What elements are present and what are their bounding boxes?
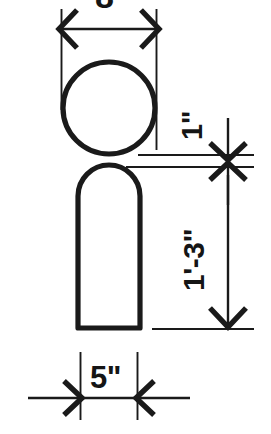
base-width-label: 5" xyxy=(90,360,121,395)
body-height-label: 1'-3" xyxy=(177,229,210,291)
head-width-label: 8" xyxy=(95,0,129,15)
technical-drawing-canvas: 1" 1'-3" 5" 8" xyxy=(0,0,271,434)
head-circle xyxy=(63,62,155,154)
body-arch xyxy=(78,165,140,328)
drawing-svg-surface: 1" 1'-3" 5" 8" xyxy=(0,0,271,434)
neck-gap-label: 1" xyxy=(176,111,208,140)
